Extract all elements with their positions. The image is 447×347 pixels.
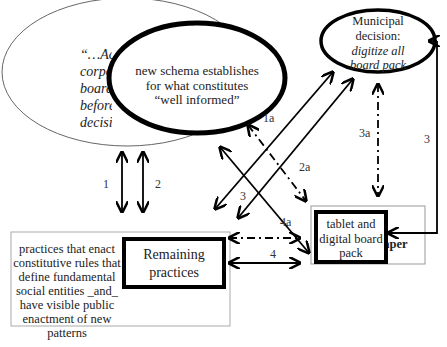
svg-text:decision: decision: [80, 115, 127, 130]
svg-text:social entities _and_: social entities _and_: [16, 284, 119, 298]
svg-text:digitize all: digitize all: [351, 44, 405, 58]
edge-label-1: 1: [103, 177, 109, 191]
svg-text:Remaining: Remaining: [143, 247, 204, 262]
svg-text:“well informed”: “well informed”: [155, 92, 240, 107]
svg-text:digital board: digital board: [319, 232, 383, 246]
svg-text:patterns: patterns: [47, 326, 87, 340]
practices-text: practices that enact constitutive rules …: [13, 242, 121, 340]
svg-text:new schema establishes: new schema establishes: [135, 63, 258, 78]
svg-text:Municipal: Municipal: [352, 14, 404, 28]
svg-text:practices: practices: [149, 265, 199, 280]
svg-text:tablet and: tablet and: [327, 217, 377, 231]
edge-label-2a: 2a: [299, 160, 311, 174]
edge-label-4: 4: [270, 247, 276, 261]
svg-text:practices that enact: practices that enact: [19, 242, 115, 256]
svg-text:constitutive rules that: constitutive rules that: [13, 256, 121, 270]
svg-text:decision:: decision:: [355, 29, 400, 43]
svg-text:for what constitutes: for what constitutes: [146, 78, 249, 93]
edge-label-3a: 3a: [359, 126, 371, 140]
svg-text:pack: pack: [339, 246, 363, 260]
svg-text:before: before: [80, 98, 115, 113]
svg-text:board pack: board pack: [350, 58, 407, 72]
svg-text:define fundamental: define fundamental: [19, 270, 116, 284]
edge-label-3-right: 3: [424, 132, 430, 146]
diagram-canvas: “…Acco corpo board before decision new s…: [0, 0, 447, 347]
edge-label-4a: 4a: [280, 215, 292, 229]
edge-label-1a: 1a: [263, 111, 275, 125]
edge-label-3-left: 3: [240, 189, 246, 203]
svg-text:have visible public: have visible public: [20, 298, 115, 312]
edge-label-2: 2: [155, 177, 161, 191]
svg-text:enactment of new: enactment of new: [23, 312, 112, 326]
